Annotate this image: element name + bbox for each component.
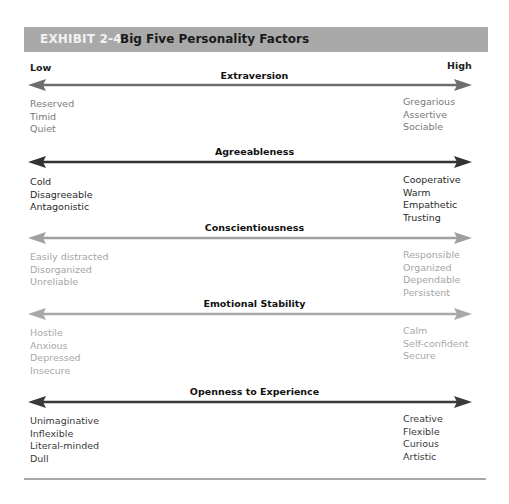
exhibit-title: Big Five Personality Factors — [120, 32, 309, 46]
trait: Artistic — [403, 451, 443, 464]
trait: Gregarious — [403, 96, 455, 109]
trait: Cold — [30, 176, 92, 189]
exhibit-label: EXHIBIT 2-4 — [40, 32, 122, 46]
high-traits-list: Creative Flexible Curious Artistic — [403, 413, 443, 464]
high-traits-list: Cooperative Warm Empathetic Trusting — [403, 174, 461, 225]
trait: Insecure — [30, 365, 81, 378]
high-traits-list: Responsible Organized Dependable Persist… — [403, 249, 460, 300]
low-traits-list: Reserved Timid Quiet — [30, 98, 74, 136]
double-arrow-icon — [28, 156, 472, 168]
low-traits-list: Cold Disagreeable Antagonistic — [30, 176, 92, 214]
trait: Warm — [403, 187, 461, 200]
trait: Timid — [30, 111, 74, 124]
trait: Empathetic — [403, 199, 461, 212]
low-traits-list: Hostile Anxious Depressed Insecure — [30, 327, 81, 378]
bottom-divider — [24, 478, 486, 480]
exhibit-header: EXHIBIT 2-4 Big Five Personality Factors — [24, 27, 488, 52]
trait: Flexible — [403, 426, 443, 439]
trait: Antagonistic — [30, 201, 92, 214]
trait: Unimaginative — [30, 415, 99, 428]
double-arrow-icon — [28, 79, 472, 91]
trait: Disorganized — [30, 264, 109, 277]
trait: Hostile — [30, 327, 81, 340]
trait: Depressed — [30, 352, 81, 365]
trait: Creative — [403, 413, 443, 426]
double-arrow-icon — [28, 308, 472, 320]
trait: Secure — [403, 350, 468, 363]
trait: Organized — [403, 262, 460, 275]
trait: Curious — [403, 438, 443, 451]
trait: Calm — [403, 325, 468, 338]
double-arrow-icon — [28, 232, 472, 244]
trait: Dependable — [403, 274, 460, 287]
low-traits-list: Unimaginative Inflexible Literal-minded … — [30, 415, 99, 466]
trait: Disagreeable — [30, 189, 92, 202]
low-traits-list: Easily distracted Disorganized Unreliabl… — [30, 251, 109, 289]
trait: Reserved — [30, 98, 74, 111]
trait: Easily distracted — [30, 251, 109, 264]
trait: Literal-minded — [30, 440, 99, 453]
trait: Unreliable — [30, 276, 109, 289]
trait: Assertive — [403, 109, 455, 122]
trait: Responsible — [403, 249, 460, 262]
trait: Dull — [30, 453, 99, 466]
high-traits-list: Gregarious Assertive Sociable — [403, 96, 455, 134]
double-arrow-icon — [28, 396, 472, 408]
trait: Self-confident — [403, 338, 468, 351]
trait: Anxious — [30, 340, 81, 353]
trait: Inflexible — [30, 428, 99, 441]
high-traits-list: Calm Self-confident Secure — [403, 325, 468, 363]
trait: Sociable — [403, 121, 455, 134]
trait: Cooperative — [403, 174, 461, 187]
trait: Quiet — [30, 123, 74, 136]
